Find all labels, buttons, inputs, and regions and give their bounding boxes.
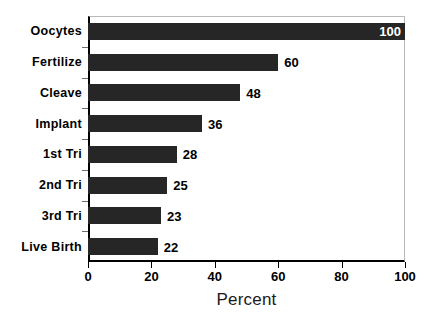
x-axis-tick-label: 100: [394, 270, 416, 283]
category-label: 2nd Tri: [39, 177, 82, 194]
bar: [88, 23, 405, 40]
bar-value-label: 22: [164, 240, 178, 253]
x-axis-tick-label: 60: [271, 270, 285, 283]
bar-value-label: 100: [379, 25, 401, 38]
x-axis-tick-label: 40: [208, 270, 222, 283]
bar: [88, 238, 158, 255]
bar-row: 28: [88, 146, 405, 163]
category-label: 1st Tri: [43, 146, 82, 163]
bar: [88, 54, 278, 71]
bar-value-label: 60: [284, 56, 298, 69]
bar-row: 100: [88, 23, 405, 40]
y-axis-tick: [82, 139, 88, 140]
y-axis-tick: [82, 108, 88, 109]
category-label: Fertilize: [32, 54, 82, 71]
x-axis-tick: [405, 262, 406, 268]
x-axis-tick: [215, 262, 216, 268]
category-label: Live Birth: [21, 238, 82, 255]
y-axis-tick: [82, 78, 88, 79]
bar-row: 60: [88, 54, 405, 71]
bar: [88, 177, 167, 194]
x-axis-tick-label: 0: [84, 270, 91, 283]
bar-row: 22: [88, 238, 405, 255]
category-label: 3rd Tri: [42, 207, 82, 224]
bar: [88, 146, 177, 163]
category-label: Oocytes: [31, 23, 82, 40]
bar: [88, 84, 240, 101]
x-axis-tick-label: 80: [334, 270, 348, 283]
bar: [88, 207, 161, 224]
bar-row: 48: [88, 84, 405, 101]
bar-row: 23: [88, 207, 405, 224]
x-axis-title: Percent: [88, 290, 405, 310]
x-axis-tick-label: 20: [144, 270, 158, 283]
bar-value-label: 36: [208, 117, 222, 130]
y-axis-tick: [82, 201, 88, 202]
bar-value-label: 23: [167, 209, 181, 222]
category-label: Cleave: [40, 84, 82, 101]
x-axis-tick: [151, 262, 152, 268]
x-axis-tick: [342, 262, 343, 268]
x-axis-tick: [88, 262, 89, 268]
bar-chart: OocytesFertilizeCleaveImplant1st Tri2nd …: [0, 0, 434, 319]
x-axis-tick: [278, 262, 279, 268]
y-axis-tick: [82, 170, 88, 171]
y-axis-tick: [82, 231, 88, 232]
bar-row: 36: [88, 115, 405, 132]
bar-value-label: 25: [173, 179, 187, 192]
category-label: Implant: [35, 115, 82, 132]
bar-value-label: 48: [246, 86, 260, 99]
y-axis-tick: [82, 47, 88, 48]
bar-row: 25: [88, 177, 405, 194]
bar: [88, 115, 202, 132]
bar-value-label: 28: [183, 148, 197, 161]
